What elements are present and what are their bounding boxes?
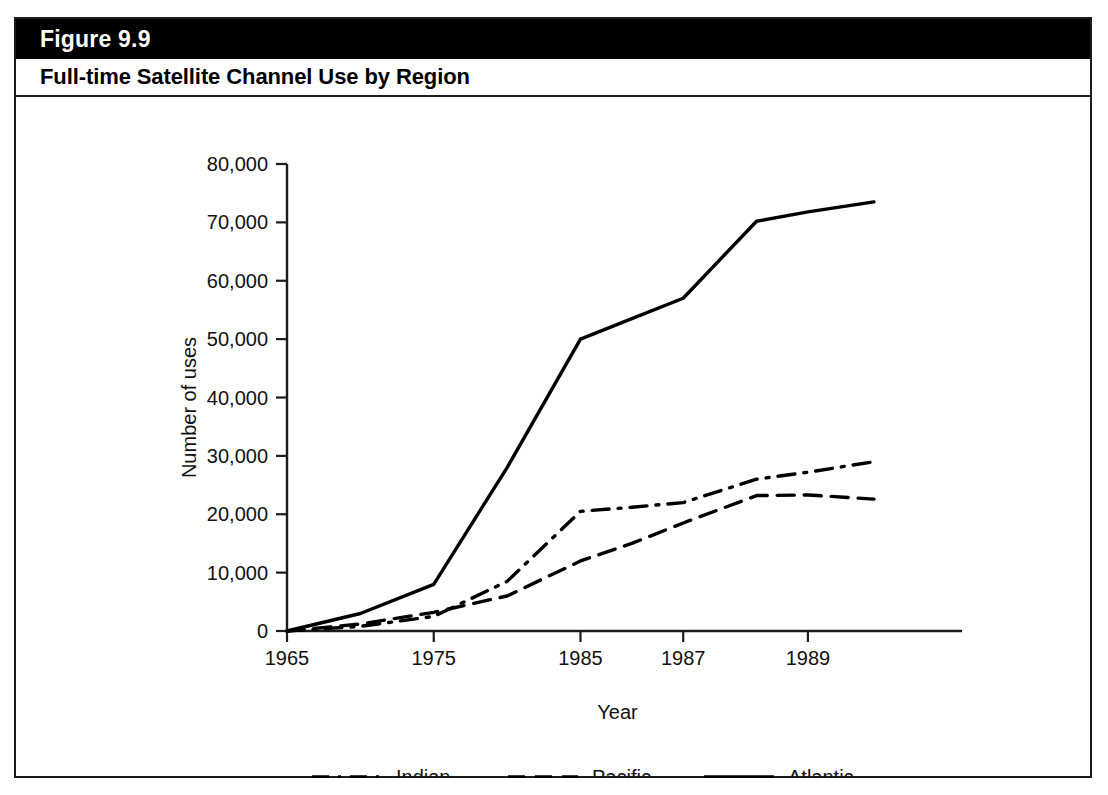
y-tick-label: 0 — [257, 620, 268, 642]
legend-label-atlantic: Atlantic — [788, 766, 854, 778]
series-lines — [287, 202, 874, 631]
x-tick-label: 1975 — [411, 647, 456, 669]
figure-header-bar: Figure 9.9 — [16, 19, 1090, 59]
x-axis-title: Year — [597, 701, 638, 723]
x-tick-label: 1985 — [558, 647, 603, 669]
y-tick-label: 60,000 — [207, 270, 268, 292]
y-tick-label: 40,000 — [207, 387, 268, 409]
y-tick-label: 30,000 — [207, 445, 268, 467]
series-line-atlantic — [287, 202, 874, 631]
y-tick-label: 20,000 — [207, 503, 268, 525]
legend-label-indian: Indian — [396, 766, 451, 778]
figure-container: Figure 9.9 Full-time Satellite Channel U… — [14, 17, 1092, 778]
y-tick-label: 50,000 — [207, 328, 268, 350]
figure-title-bar: Full-time Satellite Channel Use by Regio… — [16, 59, 1090, 97]
chart-plot-region: 010,00020,00030,00040,00050,00060,00070,… — [16, 97, 1090, 778]
figure-number-label: Figure 9.9 — [40, 26, 151, 53]
legend-label-pacific: Pacific — [592, 766, 651, 778]
x-tick-label: 1987 — [661, 647, 706, 669]
y-axis: 010,00020,00030,00040,00050,00060,00070,… — [207, 153, 287, 642]
series-line-pacific — [287, 495, 874, 631]
y-tick-label: 80,000 — [207, 153, 268, 175]
y-tick-label: 70,000 — [207, 211, 268, 233]
line-chart: 010,00020,00030,00040,00050,00060,00070,… — [16, 97, 1090, 778]
x-tick-label: 1989 — [786, 647, 831, 669]
x-axis: 19651975198519871989 — [265, 631, 962, 669]
y-axis-title: Number of uses — [178, 337, 200, 478]
y-tick-label: 10,000 — [207, 562, 268, 584]
x-tick-label: 1965 — [265, 647, 310, 669]
figure-title: Full-time Satellite Channel Use by Regio… — [40, 64, 470, 90]
chart-legend: IndianPacificAtlantic — [312, 766, 854, 778]
series-line-indian — [287, 462, 874, 631]
